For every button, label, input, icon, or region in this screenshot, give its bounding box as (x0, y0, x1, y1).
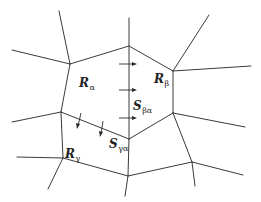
edge-beta-top (129, 46, 173, 71)
edge-spoke (173, 66, 251, 71)
label-subscript: α (89, 83, 94, 92)
region-alpha-boundary (61, 46, 129, 139)
voronoi-cell-diagram (0, 0, 261, 202)
edge-alpha-top-left (70, 46, 129, 64)
edge-spoke (192, 162, 195, 186)
label-interface-beta-alpha: Sβα (133, 97, 152, 113)
edge-spoke (128, 162, 192, 176)
edge-spoke (173, 15, 209, 71)
label-region-alpha: Rα (79, 74, 95, 90)
edge-beta-bottom (129, 113, 173, 139)
arrow-right-icon (119, 116, 137, 120)
arrow-right-icon (119, 62, 137, 66)
label-subscript: γ (75, 154, 80, 163)
label-region-gamma: Rγ (65, 145, 80, 161)
arrow-down-icon (99, 121, 103, 137)
arrow-right-icon (119, 88, 137, 92)
flux-arrows-gamma-alpha (76, 113, 103, 137)
edge-spoke (12, 112, 61, 122)
edge-spoke (125, 176, 128, 196)
outer-edges (12, 11, 251, 196)
label-subscript: β (164, 79, 169, 88)
arrow-down-icon (76, 113, 81, 129)
edge-alpha-left (61, 64, 70, 112)
region-beta-boundary (129, 46, 173, 139)
edge-spoke (59, 11, 70, 64)
label-symbol: R (79, 76, 89, 90)
label-symbol: R (154, 72, 164, 86)
label-symbol: R (65, 147, 75, 161)
edge-spoke (48, 158, 63, 189)
edge-spoke (192, 162, 243, 175)
edge-spoke (17, 157, 63, 158)
label-interface-gamma-alpha: Sγα (109, 135, 128, 151)
label-symbol: S (133, 99, 142, 113)
edge-spoke (12, 50, 70, 64)
edge-spoke (173, 113, 192, 162)
label-subscript: βα (142, 106, 152, 115)
edge-spoke (173, 113, 245, 127)
label-subscript: γα (118, 144, 128, 153)
edge-spoke (61, 112, 63, 158)
label-region-beta: Rβ (154, 70, 169, 86)
label-symbol: S (109, 137, 118, 151)
